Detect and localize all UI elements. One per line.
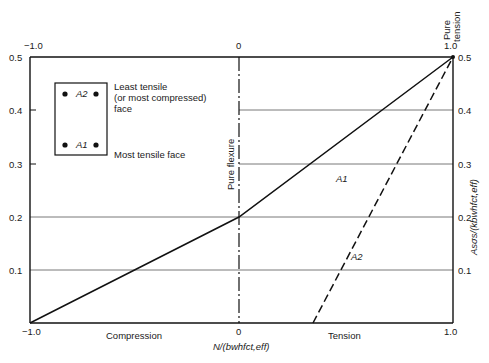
pure-tension-label-2: tension <box>451 11 462 42</box>
legend-a1: A1 <box>75 139 88 150</box>
a2-curve-label: A2 <box>350 251 363 262</box>
tension-label: Tension <box>328 330 361 341</box>
y-left-03: 0.3 <box>9 159 22 170</box>
legend-a2: A2 <box>75 88 88 99</box>
y-left-05: 0.5 <box>9 52 22 63</box>
y-right-04: 0.4 <box>458 105 471 116</box>
plot-frame <box>30 57 453 323</box>
y-right-01: 0.1 <box>458 265 471 276</box>
interaction-chart: −1.0 0 1.0 0.5 0.4 0.3 0.2 0.1 0.5 0.4 0… <box>0 0 489 363</box>
a1-curve-label: A1 <box>335 173 348 184</box>
legend-bottom-line: Most tensile face <box>114 149 185 160</box>
gridlines <box>30 110 453 270</box>
top-tick-0: 0 <box>236 40 241 51</box>
bottom-tick-neg1: −1.0 <box>22 326 41 337</box>
rebar-dot-icon <box>62 142 67 147</box>
bottom-tick-0: 0 <box>236 326 241 337</box>
series-a2-line <box>313 57 453 323</box>
y-left-04: 0.4 <box>9 105 22 116</box>
rebar-dot-icon <box>62 91 67 96</box>
compression-label: Compression <box>106 330 162 341</box>
legend-top-line2: (or most compressed) <box>114 92 206 103</box>
cross-section-legend: A2 A1 Least tensile (or most compressed)… <box>55 81 206 160</box>
y-right-03: 0.3 <box>458 159 471 170</box>
y-axis-label: Asσs/(kbwhfct,eff) <box>468 179 479 256</box>
rebar-dot-icon <box>93 91 98 96</box>
x-axis-label: N/(bwhfct,eff) <box>213 341 270 352</box>
rebar-dot-icon <box>93 142 98 147</box>
legend-top-line1: Least tensile <box>114 81 167 92</box>
y-left-01: 0.1 <box>9 265 22 276</box>
legend-top-line3: face <box>114 103 132 114</box>
top-tick-neg1: −1.0 <box>24 40 43 51</box>
pure-flexure-label: Pure flexure <box>225 139 236 190</box>
bottom-tick-1: 1.0 <box>444 326 457 337</box>
series-a1-line <box>30 57 453 323</box>
y-right-05: 0.5 <box>458 52 471 63</box>
y-left-02: 0.2 <box>9 212 22 223</box>
